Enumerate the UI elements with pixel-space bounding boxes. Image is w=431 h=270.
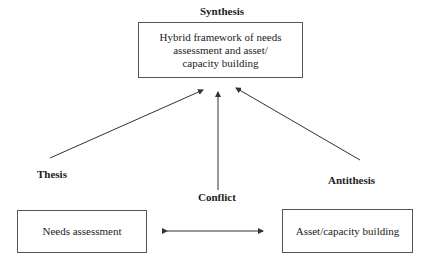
antithesis-arrow (236, 88, 360, 160)
synthesis-box-line1: Hybrid framework of needs (160, 31, 282, 44)
conflict-label: Conflict (198, 191, 236, 203)
antithesis-label: Antithesis (328, 174, 375, 186)
synthesis-box-line2: assessment and asset/ (173, 44, 268, 57)
thesis-arrow (50, 90, 203, 158)
needs-assessment-text: Needs assessment (42, 225, 121, 238)
needs-assessment-box: Needs assessment (17, 210, 147, 253)
asset-capacity-box: Asset/capacity building (282, 209, 413, 253)
asset-capacity-text: Asset/capacity building (296, 225, 400, 238)
synthesis-box-line3: capacity building (182, 57, 258, 70)
synthesis-box: Hybrid framework of needs assessment and… (138, 22, 303, 78)
synthesis-label: Synthesis (200, 5, 244, 17)
thesis-label: Thesis (37, 168, 67, 180)
